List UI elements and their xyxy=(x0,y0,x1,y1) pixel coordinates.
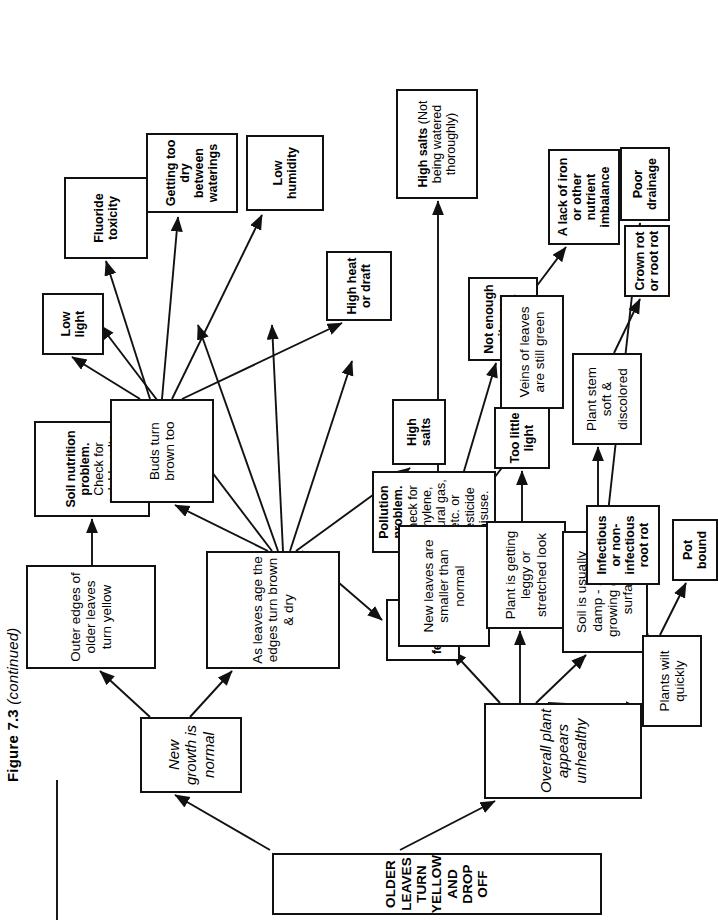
node-outer-edges-yellow[interactable]: Outer edges of older leaves turn yellow xyxy=(26,565,156,669)
node-new-leaves-smaller-box[interactable]: New leaves are smaller than normal xyxy=(398,525,490,647)
node-plants-wilt-quickly[interactable]: Plants wilt quickly xyxy=(642,635,702,727)
node-veins-still-green-box[interactable]: Veins of leaves are still green xyxy=(500,295,564,409)
node-poor-drainage[interactable]: Poor drainage xyxy=(620,147,670,221)
node-new-growth-normal-label: New growth is normal xyxy=(165,721,216,789)
node-overall-unhealthy-label: Overall plant appears unhealthy xyxy=(537,707,588,795)
node-fluoride-toxicity[interactable]: Fluoride toxicity xyxy=(64,177,148,259)
node-plant-stem-soft[interactable]: Plant stem soft & discolored xyxy=(572,353,642,445)
node-infectious-root-rot[interactable]: Infectious or non-infectious root rot xyxy=(586,505,660,585)
node-high-salts-not-watered[interactable]: High salts (Not being watered thoroughly… xyxy=(396,89,478,199)
node-root[interactable]: OLDER LEAVES TURN YELLOW AND DROP OFF xyxy=(272,853,602,915)
node-leaves-age-edges-brown[interactable]: As leaves age the edges turn brown & dry xyxy=(206,551,340,669)
node-getting-too-dry[interactable]: Getting too dry between waterings xyxy=(146,133,238,213)
node-high-salts-label: High salts xyxy=(405,403,434,461)
node-high-salts-not-watered-label: High salts (Not being watered thoroughly… xyxy=(416,93,459,195)
node-fluoride-toxicity-label: Fluoride toxicity xyxy=(92,181,121,255)
node-high-heat-or-draft-label: High heat or draft xyxy=(345,255,374,317)
node-plant-stem-soft-label: Plant stem soft & discolored xyxy=(584,357,630,441)
node-leaves-age-edges-brown-label: As leaves age the edges turn brown & dry xyxy=(250,555,296,665)
node-outer-edges-yellow-label: Outer edges of older leaves turn yellow xyxy=(68,569,114,665)
node-lack-of-iron-label: A lack of iron or other nutrient imbalan… xyxy=(556,153,613,241)
node-buds-turn-brown-label: Buds turn brown too xyxy=(147,403,178,499)
node-high-heat-or-draft[interactable]: High heat or draft xyxy=(326,251,392,321)
node-lack-of-iron[interactable]: A lack of iron or other nutrient imbalan… xyxy=(548,149,620,245)
node-new-leaves-smaller-label: New leaves are smaller than normal xyxy=(421,529,467,643)
node-low-humidity[interactable]: Low humidity xyxy=(246,135,324,211)
node-low-humidity-label: Low humidity xyxy=(271,139,300,207)
node-pot-bound[interactable]: Pot bound xyxy=(672,519,718,581)
node-too-little-light-label: Too little light xyxy=(508,411,537,465)
node-new-growth-normal[interactable]: New growth is normal xyxy=(140,717,242,793)
node-buds-turn-brown[interactable]: Buds turn brown too xyxy=(110,399,214,503)
node-low-light[interactable]: Low light xyxy=(42,293,104,355)
node-crown-rot-or-root-rot-label: Crown rot or root rot xyxy=(633,229,662,293)
node-plant-leggy[interactable]: Plant is getting leggy or stretched look xyxy=(486,521,566,629)
node-high-salts[interactable]: High salts xyxy=(392,399,446,465)
node-plant-leggy-label: Plant is getting leggy or stretched look xyxy=(503,525,549,625)
node-root-label: OLDER LEAVES TURN YELLOW AND DROP OFF xyxy=(383,855,491,913)
node-pot-bound-label: Pot bound xyxy=(681,523,710,577)
node-overall-unhealthy[interactable]: Overall plant appears unhealthy xyxy=(484,703,642,799)
node-crown-rot-or-root-rot[interactable]: Crown rot or root rot xyxy=(624,225,670,297)
node-low-light-label: Low light xyxy=(59,297,88,351)
node-plants-wilt-quickly-label: Plants wilt quickly xyxy=(657,639,688,723)
node-veins-still-green-label: Veins of leaves are still green xyxy=(517,299,548,405)
node-infectious-root-rot-label: Infectious or non-infectious root rot xyxy=(595,509,652,581)
node-too-little-light[interactable]: Too little light xyxy=(494,407,550,469)
node-getting-too-dry-label: Getting too dry between waterings xyxy=(164,137,221,209)
node-poor-drainage-label: Poor drainage xyxy=(631,151,660,217)
